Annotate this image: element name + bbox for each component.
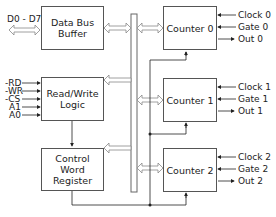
clock-0-label: Clock 0	[238, 10, 271, 20]
gate-2-label: Gate 2	[238, 164, 268, 174]
clock-2-label: Clock 2	[238, 152, 271, 162]
read-write-logic-block: Read/Write Logic	[41, 77, 104, 121]
clock-1-label: Clock 1	[238, 82, 271, 92]
data-bus-arrow-icon	[9, 25, 40, 35]
out-0-label: Out 0	[238, 34, 263, 44]
data-bus-label: D0 - D7	[7, 14, 41, 24]
control-word-register-block: Control Word Register	[41, 148, 104, 191]
counter-2-block: Counter 2	[163, 148, 217, 192]
out-1-label: Out 1	[238, 106, 263, 116]
internal-bus	[131, 14, 137, 192]
counter-1-block: Counter 1	[163, 78, 217, 122]
gate-0-label: Gate 0	[238, 22, 268, 32]
data-bus-buffer-block: Data Bus Buffer	[41, 6, 104, 50]
a0-label: A0	[9, 110, 21, 120]
counter-0-block: Counter 0	[163, 6, 217, 50]
gate-1-label: Gate 1	[238, 94, 268, 104]
out-2-label: Out 2	[238, 176, 263, 186]
